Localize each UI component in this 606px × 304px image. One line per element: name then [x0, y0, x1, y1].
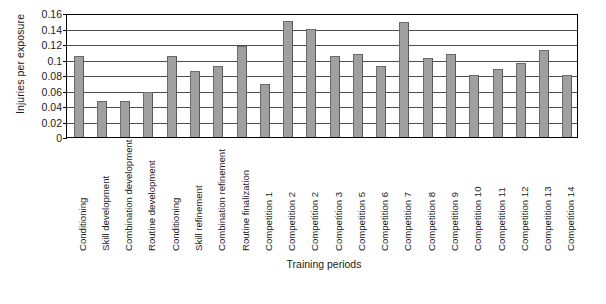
bar: [306, 29, 316, 138]
bar: [190, 71, 200, 137]
bar: [516, 63, 526, 137]
y-axis-tick-label: 0.12: [42, 40, 62, 50]
x-axis-tick-label: Combination development: [124, 140, 134, 251]
x-axis-title: Training periods: [0, 258, 606, 270]
bar: [143, 92, 153, 137]
x-axis-tick-label: Combination refinement: [217, 149, 227, 251]
y-axis-tick-label: 0: [56, 133, 62, 143]
bar: [260, 84, 270, 137]
y-axis-title: Injuries per exposure: [14, 0, 26, 134]
x-axis-tick-label: Competition 1: [264, 192, 274, 251]
x-axis-tick-label: Competition 6: [380, 192, 390, 251]
bar-chart: Injuries per exposure 0.160.140.120.10.0…: [0, 0, 606, 304]
y-axis-tick-label: 0.08: [42, 71, 62, 81]
y-axis-tick-label: 0.16: [42, 9, 62, 19]
bar: [399, 22, 409, 137]
x-axis-tick-label: Routine development: [147, 160, 157, 251]
bar: [213, 66, 223, 137]
y-axis-tick-label: 0.06: [42, 87, 62, 97]
x-axis-tick-label: Competition 5: [357, 192, 367, 251]
y-axis-tick-label: 0.1: [47, 56, 62, 66]
x-axis-tick-label: Competition 3: [334, 192, 344, 251]
x-axis-tick-label: Competition 13: [543, 186, 553, 251]
bar: [74, 56, 84, 137]
x-axis-tick-label: Competition 9: [450, 192, 460, 251]
bar: [562, 75, 572, 137]
x-axis-tick-label: Competition 10: [473, 186, 483, 251]
y-axis-tick-label: 0.04: [42, 102, 62, 112]
bar: [237, 46, 247, 137]
bar: [493, 69, 503, 137]
bar: [446, 54, 456, 137]
bar: [97, 101, 107, 137]
bar: [330, 56, 340, 137]
bar: [353, 54, 363, 137]
bar: [469, 75, 479, 137]
bars-layer: [67, 15, 577, 137]
x-axis-tick-label: Conditioning: [78, 198, 88, 251]
x-axis-tick-label: Conditioning: [171, 198, 181, 251]
x-axis-tick-label: Competition 11: [497, 187, 507, 251]
bar: [283, 21, 293, 137]
bar: [539, 50, 549, 137]
bar: [376, 66, 386, 137]
x-axis-tick-label: Skill development: [101, 176, 111, 251]
x-axis-tick-label: Competition 12: [520, 186, 530, 251]
x-axis-tick-label: Competition 2: [287, 192, 297, 251]
bar: [423, 58, 433, 137]
x-axis-tick-label: Competition 7: [403, 192, 413, 251]
y-axis-tick-labels: 0.160.140.120.10.080.060.040.020: [26, 9, 62, 139]
x-axis-tick-label: Competition 2: [310, 192, 320, 251]
bar: [167, 56, 177, 137]
x-axis-tick-label: Routine finalization: [241, 170, 251, 251]
y-axis-tick-label: 0.14: [42, 25, 62, 35]
bar: [120, 101, 130, 137]
x-axis-tick-label: Skill refinement: [194, 185, 204, 251]
plot-area: [66, 14, 578, 138]
x-axis-tick-label: Competition 14: [566, 186, 576, 251]
x-axis-tick-label: Competition 8: [427, 192, 437, 251]
x-axis-tick-labels: ConditioningSkill developmentCombination…: [66, 139, 578, 251]
y-axis-tick-label: 0.02: [42, 118, 62, 128]
